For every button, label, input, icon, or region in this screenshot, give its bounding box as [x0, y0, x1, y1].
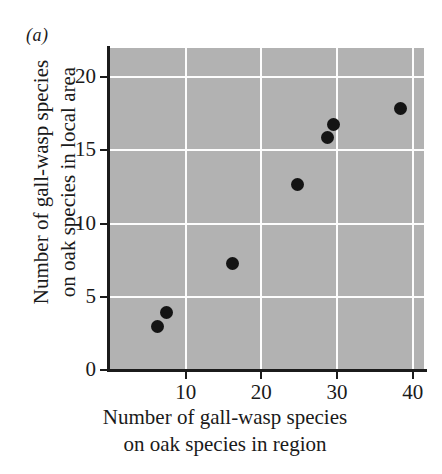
- x-axis-title-line-1: Number of gall-wasp species: [40, 404, 410, 431]
- scatter-point: [394, 102, 407, 115]
- y-tick-mark: [100, 223, 108, 225]
- y-tick-mark: [100, 76, 108, 78]
- gridline-vertical: [260, 48, 262, 370]
- gridline-vertical: [185, 48, 187, 370]
- y-axis-title: Number of gall-wasp species on oak speci…: [28, 17, 82, 347]
- scatter-point: [151, 320, 164, 333]
- scatter-point: [327, 118, 340, 131]
- y-tick-label: 0: [36, 359, 96, 380]
- y-axis-title-line-2: on oak species in local area: [55, 17, 82, 347]
- scatter-point: [226, 257, 239, 270]
- scatter-point: [291, 178, 304, 191]
- x-tick-mark: [185, 371, 187, 379]
- scatter-point: [160, 306, 173, 319]
- gridline-horizontal: [110, 223, 424, 225]
- x-tick-mark: [336, 371, 338, 379]
- gridline-horizontal: [110, 76, 424, 78]
- plot-area: [110, 48, 424, 370]
- scatter-point: [321, 131, 334, 144]
- x-axis-line: [107, 369, 427, 372]
- gridline-vertical: [336, 48, 338, 370]
- gridline-vertical: [412, 48, 414, 370]
- x-tick-label: 10: [156, 381, 216, 403]
- figure-panel: (a) 05101520 10203040 Number of gall-was…: [0, 0, 442, 474]
- x-tick-label: 40: [383, 381, 442, 403]
- y-tick-mark: [100, 369, 108, 371]
- x-tick-label: 30: [307, 381, 367, 403]
- x-tick-mark: [260, 371, 262, 379]
- y-axis-title-line-1: Number of gall-wasp species: [28, 17, 55, 347]
- y-axis-line: [107, 46, 110, 372]
- gridline-horizontal: [110, 296, 424, 298]
- gridline-horizontal: [110, 149, 424, 151]
- x-axis-title: Number of gall-wasp species on oak speci…: [40, 404, 410, 458]
- y-tick-mark: [100, 149, 108, 151]
- x-axis-title-line-2: on oak species in region: [40, 431, 410, 458]
- y-tick-mark: [100, 296, 108, 298]
- x-tick-label: 20: [231, 381, 291, 403]
- x-tick-mark: [412, 371, 414, 379]
